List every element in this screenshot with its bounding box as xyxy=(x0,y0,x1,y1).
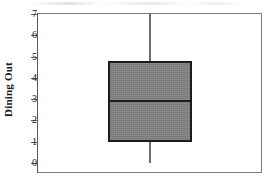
y-tick-label: 3 xyxy=(15,94,37,104)
scan-artifact xyxy=(30,2,240,5)
y-axis-spine xyxy=(37,13,38,173)
y-tick-label: 1 xyxy=(15,137,37,147)
median-line xyxy=(108,100,192,102)
y-tick-label: 6 xyxy=(15,30,37,40)
y-axis-label: Dining Out xyxy=(0,0,16,179)
whisker-upper xyxy=(149,14,151,61)
whisker-lower xyxy=(149,142,151,163)
y-tick-label: 7 xyxy=(15,9,37,19)
y-tick-label: 4 xyxy=(15,73,37,83)
box-plot-figure: Dining Out 76543210 xyxy=(0,0,268,179)
y-tick-label: 5 xyxy=(15,52,37,62)
y-tick-label: 2 xyxy=(15,115,37,125)
y-tick-label: 0 xyxy=(15,158,37,168)
